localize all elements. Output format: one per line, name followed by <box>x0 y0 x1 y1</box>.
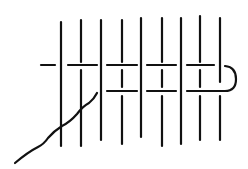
thread-loop <box>187 66 236 91</box>
stitch-illustration <box>0 0 248 169</box>
needle-thread <box>15 93 97 163</box>
stitch-diagram: Line drawing of a weaving/darning stitch… <box>0 0 248 169</box>
